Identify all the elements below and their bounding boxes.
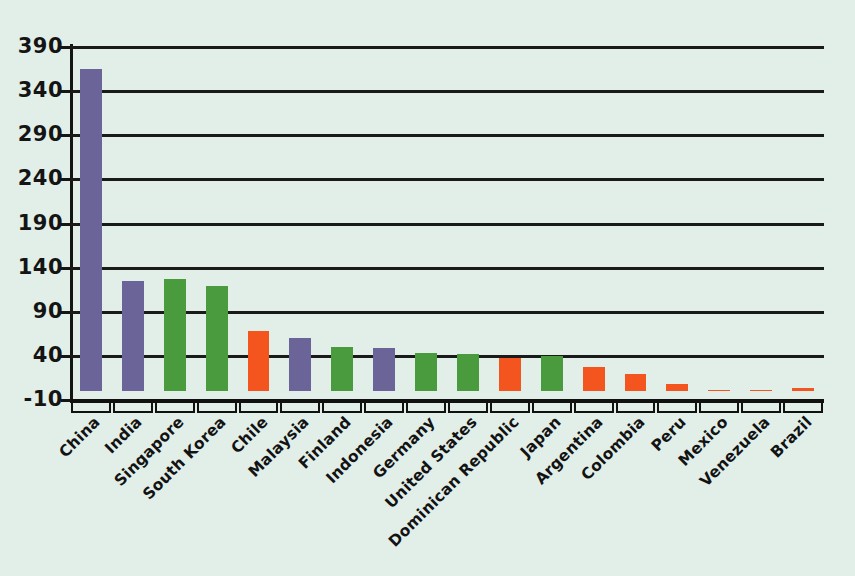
category-tick-singapore — [155, 400, 195, 413]
bar-mexico[interactable] — [708, 390, 730, 391]
category-tick-venezuela — [741, 400, 781, 413]
bar-argentina[interactable] — [583, 367, 605, 391]
bar-south-korea[interactable] — [206, 286, 228, 391]
bars-group — [70, 47, 824, 400]
bar-brazil[interactable] — [792, 388, 814, 392]
bar-singapore[interactable] — [164, 279, 186, 391]
category-tick-mexico — [699, 400, 739, 413]
bar-japan[interactable] — [541, 356, 563, 391]
category-tick-japan — [532, 400, 572, 413]
category-axis-labels: ChinaIndiaSingaporeSouth KoreaChileMalay… — [0, 413, 855, 533]
bar-india[interactable] — [122, 281, 144, 391]
category-tick-malaysia — [280, 400, 320, 413]
bar-colombia[interactable] — [625, 374, 647, 391]
category-tick-peru — [657, 400, 697, 413]
category-tick-united-states — [448, 400, 488, 413]
category-axis — [70, 400, 824, 413]
category-tick-finland — [322, 400, 362, 413]
bar-finland[interactable] — [331, 347, 353, 391]
bar-venezuela[interactable] — [750, 390, 772, 391]
y-tick-label-240: 240 — [0, 168, 63, 189]
bar-indonesia[interactable] — [373, 348, 395, 391]
bar-china[interactable] — [80, 69, 102, 391]
y-tick-label-190: 190 — [0, 213, 63, 234]
category-tick-chile — [239, 400, 279, 413]
y-tick-label--10: -10 — [0, 389, 63, 410]
category-tick-china — [71, 400, 111, 413]
category-tick-dominican-republic — [490, 400, 530, 413]
bar-peru[interactable] — [666, 384, 688, 391]
bar-united-states[interactable] — [457, 354, 479, 391]
bar-chart: 3903402902401901409040-10 ChinaIndiaSing… — [0, 0, 855, 576]
category-tick-india — [113, 400, 153, 413]
y-tick-label-140: 140 — [0, 257, 63, 278]
y-tick-label-40: 40 — [0, 345, 63, 366]
category-tick-germany — [406, 400, 446, 413]
y-tick-label-90: 90 — [0, 301, 63, 322]
category-tick-south-korea — [197, 400, 237, 413]
category-tick-argentina — [574, 400, 614, 413]
y-tick-label-340: 340 — [0, 80, 63, 101]
category-tick-brazil — [783, 400, 823, 413]
bar-dominican-republic[interactable] — [499, 358, 521, 392]
bar-germany[interactable] — [415, 353, 437, 391]
category-tick-indonesia — [364, 400, 404, 413]
bar-chile[interactable] — [248, 331, 270, 391]
category-tick-colombia — [616, 400, 656, 413]
bar-malaysia[interactable] — [289, 338, 311, 391]
y-tick-label-390: 390 — [0, 36, 63, 57]
y-tick-label-290: 290 — [0, 124, 63, 145]
